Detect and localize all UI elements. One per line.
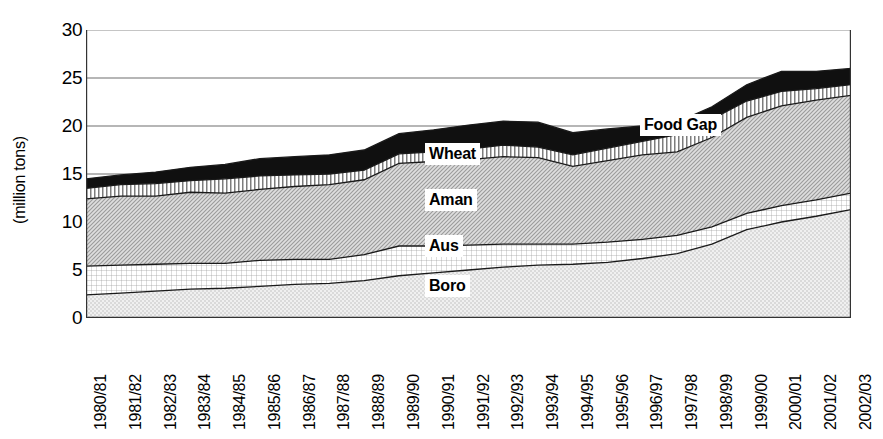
x-axis-tick-label-text: 1996/97 <box>649 374 665 430</box>
x-axis-tick-label-text: 1989/90 <box>406 374 422 430</box>
x-axis-tick-label: 2000/01 <box>772 322 790 434</box>
y-axis-title-label: (million tons) <box>11 136 29 224</box>
x-axis-tick-label: 1998/99 <box>703 322 721 434</box>
x-axis-tick-label-text: 1987/88 <box>336 374 352 430</box>
x-axis-tick-label: 1997/98 <box>668 322 686 434</box>
stacked-area-chart: (million tons) 051015202530 <box>0 0 883 439</box>
x-axis-tick-label: 1991/92 <box>460 322 478 434</box>
x-axis-tick-label-text: 1985/86 <box>267 374 283 430</box>
series-label-aus: Aus <box>425 235 463 257</box>
x-axis-tick-label-text: 1990/91 <box>441 374 457 430</box>
x-axis-tick-label: 1993/94 <box>529 322 547 434</box>
x-axis-tick-label-text: 1984/85 <box>232 374 248 430</box>
x-axis-tick-label: 1996/97 <box>633 322 651 434</box>
series-label-food-gap: Food Gap <box>640 114 721 136</box>
x-axis-tick-label: 1990/91 <box>425 322 443 434</box>
x-axis-tick-label-text: 1999/00 <box>754 374 770 430</box>
series-label-aman: Aman <box>425 189 477 211</box>
x-axis-tick-label-text: 2001/02 <box>823 374 839 430</box>
y-axis-tick-label: 25 <box>48 68 82 87</box>
y-axis-tick-label: 10 <box>48 212 82 231</box>
x-axis-tick-label: 1986/87 <box>286 322 304 434</box>
x-axis-tick-label-text: 1995/96 <box>615 374 631 430</box>
x-axis-tick-label: 1985/86 <box>251 322 269 434</box>
x-axis-tick-label-text: 1980/81 <box>93 374 109 430</box>
x-axis-tick-label: 1984/85 <box>216 322 234 434</box>
series-label-wheat: Wheat <box>425 143 480 165</box>
x-axis-tick-label-text: 1992/93 <box>510 374 526 430</box>
x-axis-tick-label: 1987/88 <box>320 322 338 434</box>
y-axis-tick-labels: 051015202530 <box>38 0 82 439</box>
x-axis-tick-label: 1983/84 <box>181 322 199 434</box>
y-axis-tick-label: 20 <box>48 116 82 135</box>
x-axis-tick-label: 1982/83 <box>147 322 165 434</box>
x-axis-tick-label-text: 1993/94 <box>545 374 561 430</box>
x-axis-tick-label-text: 2002/03 <box>858 374 874 430</box>
y-axis-tick-label: 15 <box>48 164 82 183</box>
x-axis-tick-label-text: 1988/89 <box>371 374 387 430</box>
x-axis-tick-label: 2002/03 <box>842 322 860 434</box>
y-axis-title: (million tons) <box>2 95 38 265</box>
x-axis-tick-label-text: 1991/92 <box>476 374 492 430</box>
x-axis-tick-label: 1999/00 <box>738 322 756 434</box>
x-axis-tick-label-text: 1982/83 <box>163 374 179 430</box>
x-axis-tick-label-text: 1997/98 <box>684 374 700 430</box>
x-axis-tick-label: 2001/02 <box>807 322 825 434</box>
x-axis-tick-label: 1988/89 <box>355 322 373 434</box>
plot-area: Food Gap Wheat Aman Aus Boro <box>86 30 851 318</box>
x-axis-tick-label-text: 1998/99 <box>719 374 735 430</box>
x-axis-tick-label-text: 2000/01 <box>788 374 804 430</box>
x-axis-tick-label: 1992/93 <box>494 322 512 434</box>
x-axis-tick-label: 1981/82 <box>112 322 130 434</box>
series-label-boro: Boro <box>425 275 470 297</box>
x-axis-tick-labels: 1980/811981/821982/831983/841984/851985/… <box>86 322 851 439</box>
x-axis-tick-label: 1994/95 <box>564 322 582 434</box>
x-axis-tick-label-text: 1994/95 <box>580 374 596 430</box>
x-axis-tick-label: 1980/81 <box>77 322 95 434</box>
y-axis-tick-label: 30 <box>48 20 82 39</box>
x-axis-tick-label-text: 1986/87 <box>302 374 318 430</box>
x-axis-tick-label-text: 1983/84 <box>197 374 213 430</box>
x-axis-tick-label: 1995/96 <box>599 322 617 434</box>
x-axis-tick-label-text: 1981/82 <box>128 374 144 430</box>
y-axis-tick-label: 5 <box>48 260 82 279</box>
x-axis-tick-label: 1989/90 <box>390 322 408 434</box>
